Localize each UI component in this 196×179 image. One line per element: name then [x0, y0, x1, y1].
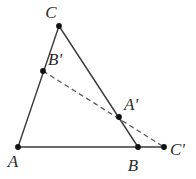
point-a-dot [15, 144, 21, 150]
label-b: B [128, 156, 139, 175]
label-b-prime: B' [48, 50, 62, 69]
point-b-prime-dot [40, 68, 46, 74]
geometry-diagram: C B' A' A B C' [0, 0, 196, 179]
point-b-dot [135, 144, 141, 150]
label-c-prime: C' [170, 140, 185, 159]
label-a: A [7, 152, 19, 171]
label-a-prime: A' [123, 95, 138, 114]
point-a-prime-dot [116, 114, 122, 120]
geometry-canvas: C B' A' A B C' [0, 0, 196, 179]
segment-transversal-dashed [43, 71, 164, 147]
point-c-dot [56, 23, 62, 29]
point-c-prime-dot [161, 144, 167, 150]
segment-a-to-c [18, 26, 59, 147]
segment-c-to-b [59, 26, 138, 147]
label-c: C [45, 3, 57, 22]
